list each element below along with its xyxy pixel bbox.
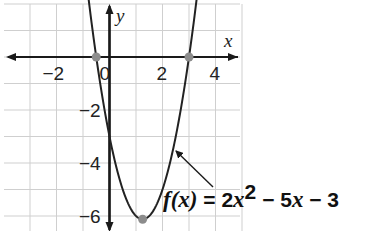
y-tick-labels: −2−4−6 (79, 100, 101, 227)
annotation-pointer (176, 151, 213, 187)
vertex-point (138, 215, 147, 224)
parabola-graph: x y −2024 −2−4−6 f(x) = 2x2 − 5x − 3 (0, 0, 374, 231)
root-right-point (185, 53, 194, 62)
x-tick-label: 2 (157, 63, 168, 84)
x-axis-label: x (223, 30, 233, 51)
x-tick-label: 4 (210, 63, 221, 84)
y-tick-label: −2 (79, 100, 101, 121)
x-tick-labels: −2024 (43, 63, 221, 84)
y-tick-label: −6 (79, 206, 101, 227)
x-tick-label: 0 (100, 63, 111, 84)
x-tick-label: −2 (43, 63, 65, 84)
y-axis-label: y (114, 5, 125, 26)
root-left-point (92, 53, 101, 62)
y-tick-label: −4 (79, 153, 101, 174)
